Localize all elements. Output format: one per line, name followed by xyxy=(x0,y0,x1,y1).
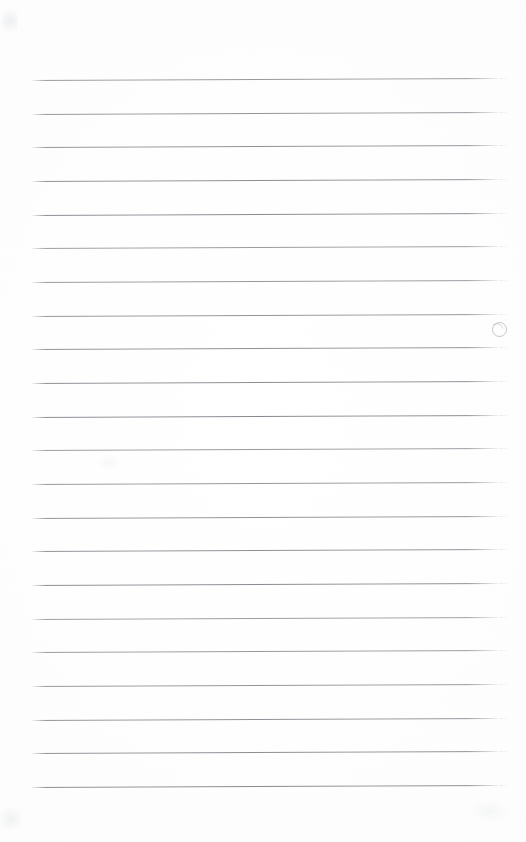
rule-line xyxy=(32,347,500,350)
rule-line xyxy=(32,516,500,519)
ruled-lines-group xyxy=(0,0,526,842)
rule-line xyxy=(32,448,500,451)
rule-line xyxy=(32,583,500,586)
rule-line xyxy=(32,785,500,788)
margin-mark-tail xyxy=(492,322,503,331)
rule-line xyxy=(32,246,500,249)
rule-line xyxy=(32,280,500,283)
rule-line xyxy=(32,751,500,754)
margin-circle-mark xyxy=(492,322,507,337)
rule-line xyxy=(32,650,500,653)
rule-line xyxy=(32,145,500,148)
rule-line xyxy=(32,718,500,721)
rule-line xyxy=(32,549,500,552)
rule-line xyxy=(32,78,500,81)
rule-line xyxy=(32,314,500,317)
scanned-page: Blank ruled notebook page Scanned sheet … xyxy=(0,0,526,842)
rule-line xyxy=(32,112,500,115)
rule-line xyxy=(32,381,500,384)
rule-line xyxy=(32,213,500,216)
rule-line xyxy=(32,482,500,485)
rule-line xyxy=(32,684,500,687)
rule-line xyxy=(32,617,500,620)
rule-line xyxy=(32,179,500,182)
rule-line xyxy=(32,415,500,418)
